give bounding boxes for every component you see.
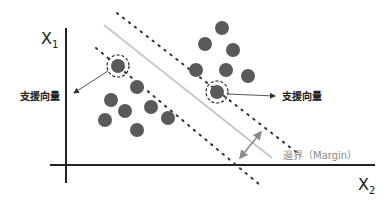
data-point [189, 63, 203, 77]
data-point [210, 85, 224, 99]
x-axis-label: X2 [358, 175, 375, 196]
margin-label: 邊界（Margin） [283, 149, 357, 161]
data-point [215, 21, 229, 35]
data-point [161, 111, 175, 125]
hyperplane-line [104, 25, 272, 158]
data-point [130, 80, 144, 94]
data-point [144, 100, 158, 114]
class-b-points [189, 21, 255, 99]
support-vector-label-right: 支援向量 [281, 90, 322, 102]
support-vector-label-left: 支援向量 [19, 90, 60, 102]
data-point [118, 104, 132, 118]
data-point [226, 43, 240, 57]
data-point [98, 113, 112, 127]
data-point [198, 37, 212, 51]
support-vector-arrow-right [228, 94, 275, 96]
data-point [111, 59, 125, 73]
data-point [219, 63, 233, 77]
svm-diagram: X1 X2 支援向量 支援向量 邊界（Margin） [0, 0, 389, 202]
support-vector-arrow-left [74, 71, 108, 93]
data-point [130, 123, 144, 137]
data-point [241, 69, 255, 83]
data-point [104, 93, 118, 107]
y-axis-label: X1 [41, 29, 58, 50]
class-a-points [98, 59, 175, 137]
upper-margin-line [117, 13, 300, 155]
